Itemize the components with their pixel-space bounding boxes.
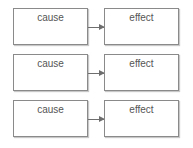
effect-box: effect: [104, 100, 179, 137]
cause-box: cause: [13, 54, 88, 91]
effect-box: effect: [104, 54, 179, 91]
arrow-connector: [88, 119, 104, 120]
cause-box: cause: [13, 8, 88, 45]
effect-box: effect: [104, 8, 179, 45]
arrow-connector: [88, 73, 104, 74]
arrow-connector: [88, 27, 104, 28]
cause-box: cause: [13, 100, 88, 137]
